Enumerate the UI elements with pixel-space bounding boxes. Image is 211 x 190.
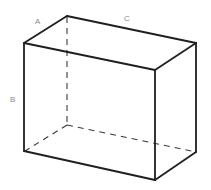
hidden-edge-back-bottom xyxy=(67,125,196,152)
label-a: A xyxy=(35,18,40,26)
rectangular-prism-diagram xyxy=(0,0,211,190)
edge-bottom-right-depth xyxy=(155,152,196,180)
hidden-edge-left-depth xyxy=(25,125,67,151)
edge-top-front xyxy=(24,43,155,70)
edge-top-right-depth xyxy=(155,43,196,70)
edge-front-bottom xyxy=(24,151,155,180)
edge-top-left-depth xyxy=(24,16,67,43)
label-c: C xyxy=(124,15,130,23)
label-b: B xyxy=(10,96,15,104)
edge-top-back xyxy=(67,16,196,43)
